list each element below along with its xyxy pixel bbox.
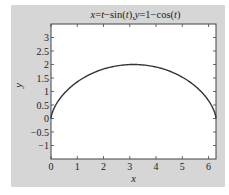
y-axis-label: y — [13, 83, 24, 89]
x-tick-label: 5 — [180, 161, 185, 172]
x-tick-label: 0 — [49, 161, 54, 172]
y-tick-label: −0.5 — [31, 127, 49, 138]
x-tick-label: 2 — [101, 161, 106, 172]
axes-box — [51, 24, 216, 159]
chart-title: x=t−sin(t),y=1−cos(t) — [90, 9, 181, 21]
y-tick-label: 2.5 — [37, 46, 50, 57]
x-axis-label: x — [130, 173, 136, 184]
chart: 0123456−1−0.500.511.522.53x=t−sin(t),y=1… — [0, 0, 229, 195]
y-tick-label: 0.5 — [37, 100, 50, 111]
x-tick-label: 4 — [154, 161, 159, 172]
y-tick-label: 1.5 — [37, 73, 50, 84]
x-tick-label: 6 — [206, 161, 211, 172]
x-tick-label: 1 — [75, 161, 80, 172]
y-tick-label: 1 — [44, 86, 49, 97]
y-tick-label: 0 — [44, 113, 49, 124]
x-tick-label: 3 — [127, 161, 132, 172]
y-tick-label: 3 — [44, 32, 49, 43]
y-tick-label: −1 — [38, 140, 49, 151]
y-tick-label: 2 — [44, 59, 49, 70]
